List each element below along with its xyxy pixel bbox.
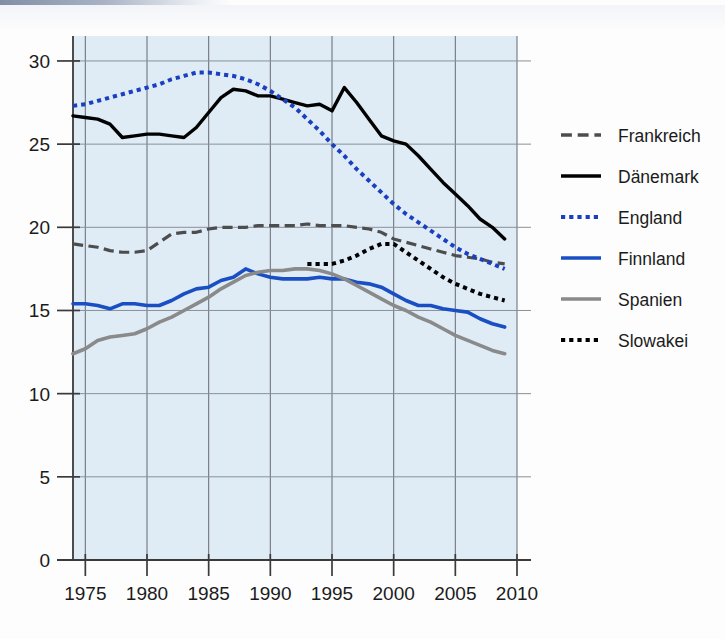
- legend-item-spanien[interactable]: Spanien: [561, 290, 682, 310]
- legend-item-england[interactable]: England: [561, 208, 682, 228]
- x-tick-label: 1980: [126, 583, 168, 604]
- legend-item-frankreich[interactable]: Frankreich: [561, 126, 701, 146]
- y-tick-label: 15: [29, 300, 50, 321]
- y-tick-label: 30: [29, 51, 50, 72]
- legend-label: Finnland: [618, 249, 685, 269]
- legend-item-slowakei[interactable]: Slowakei: [561, 331, 688, 351]
- y-tick-label: 20: [29, 217, 50, 238]
- y-tick-label: 25: [29, 134, 50, 155]
- x-tick-label: 1990: [249, 583, 291, 604]
- legend-label: Frankreich: [618, 126, 701, 146]
- y-tick-label: 0: [39, 550, 50, 571]
- x-tick-label: 1975: [64, 583, 106, 604]
- legend-label: England: [618, 208, 682, 228]
- legend-label: Slowakei: [618, 331, 688, 351]
- legend-label: Spanien: [618, 290, 682, 310]
- legend-item-danemark[interactable]: Dänemark: [561, 167, 699, 187]
- x-tick-label: 2010: [496, 583, 538, 604]
- chart-page: 051015202530 197519801985199019952000200…: [0, 0, 725, 639]
- chart-legend: FrankreichDänemarkEnglandFinnlandSpanien…: [561, 126, 701, 351]
- y-axis-tick-labels: 051015202530: [29, 51, 50, 571]
- x-axis-tick-labels: 19751980198519901995200020052010: [64, 583, 538, 604]
- legend-item-finnland[interactable]: Finnland: [561, 249, 685, 269]
- line-chart: 051015202530 197519801985199019952000200…: [0, 0, 725, 639]
- plot-background: [73, 36, 517, 560]
- x-tick-label: 1985: [188, 583, 230, 604]
- x-tick-label: 2000: [373, 583, 415, 604]
- x-tick-label: 1995: [311, 583, 353, 604]
- legend-label: Dänemark: [618, 167, 699, 187]
- y-tick-label: 10: [29, 384, 50, 405]
- y-tick-label: 5: [39, 467, 50, 488]
- x-tick-label: 2005: [434, 583, 476, 604]
